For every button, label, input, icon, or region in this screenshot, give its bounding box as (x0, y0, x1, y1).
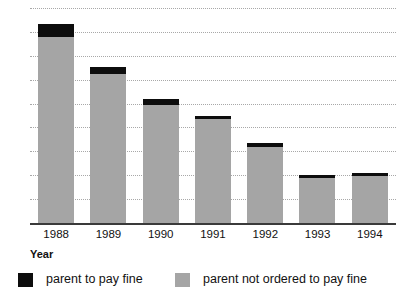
stacked-bar (195, 116, 231, 224)
legend-label-parent-not-ordered-to-pay-fine: parent not ordered to pay fine (203, 272, 367, 287)
bar-segment-parent-not-ordered-to-pay-fine (352, 176, 388, 223)
bar-cell (82, 8, 134, 223)
plot-area: 024681012141618 (30, 8, 396, 223)
bar-segment-parent-not-ordered-to-pay-fine (38, 37, 74, 223)
bar-segment-parent-to-pay-fine (38, 24, 74, 37)
stacked-bar (247, 143, 283, 223)
stacked-bar (38, 24, 74, 223)
stacked-bar (143, 99, 179, 223)
legend-label-parent-to-pay-fine: parent to pay fine (46, 272, 143, 287)
x-axis-title: Year (30, 248, 53, 261)
chart-legend: parent to pay fine parent not ordered to… (18, 272, 402, 290)
bar-cell (239, 8, 291, 223)
bar-cell (344, 8, 396, 223)
x-axis-tick-labels: 1988198919901991199219931994 (30, 227, 396, 243)
x-axis-tick-label: 1994 (344, 227, 396, 241)
stacked-bar (352, 173, 388, 223)
x-axis-tick-label: 1988 (30, 227, 82, 241)
bar-cell (291, 8, 343, 223)
bar-cell (187, 8, 239, 223)
bar-segment-parent-to-pay-fine (90, 67, 126, 74)
bar-segment-parent-not-ordered-to-pay-fine (247, 147, 283, 223)
bar-cell (30, 8, 82, 223)
bar-cell (135, 8, 187, 223)
bar-segment-parent-not-ordered-to-pay-fine (299, 178, 335, 223)
x-axis-tick-label: 1992 (239, 227, 291, 241)
x-axis-line (30, 223, 396, 225)
legend-item-parent-not-ordered-to-pay-fine: parent not ordered to pay fine (175, 272, 367, 287)
legend-swatch-black-icon (18, 273, 33, 287)
bar-segment-parent-not-ordered-to-pay-fine (195, 119, 231, 223)
x-axis-tick-label: 1993 (291, 227, 343, 241)
bar-chart-figure: 024681012141618 198819891990199119921993… (0, 0, 402, 295)
x-axis-tick-label: 1990 (135, 227, 187, 241)
bar-segment-parent-not-ordered-to-pay-fine (143, 105, 179, 223)
bar-segment-parent-not-ordered-to-pay-fine (90, 74, 126, 223)
stacked-bar (299, 175, 335, 223)
bar-group (30, 8, 396, 223)
x-axis-tick-label: 1989 (82, 227, 134, 241)
x-axis-tick-label: 1991 (187, 227, 239, 241)
stacked-bar (90, 67, 126, 223)
legend-item-parent-to-pay-fine: parent to pay fine (18, 272, 143, 287)
legend-swatch-gray-icon (175, 273, 190, 287)
